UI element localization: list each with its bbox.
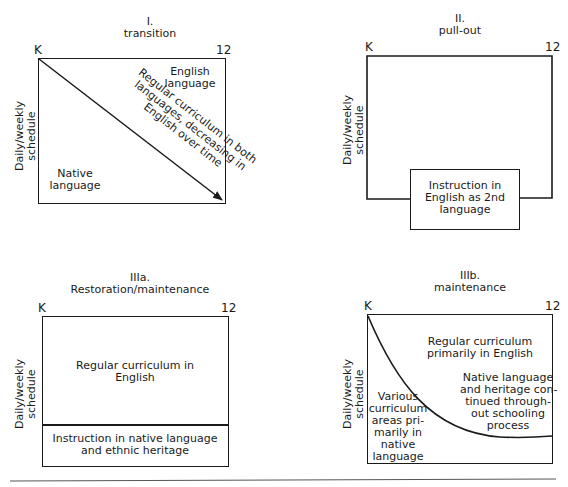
diagram-linework (0, 0, 568, 487)
bottom-rule (10, 479, 556, 481)
schedule-outline (367, 56, 552, 199)
maintenance-curve (368, 316, 552, 437)
transition-arrow (39, 59, 222, 200)
